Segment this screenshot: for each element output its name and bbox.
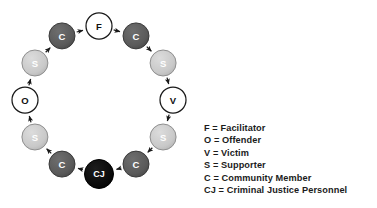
arrow-layer bbox=[29, 30, 169, 170]
flow-arrow bbox=[78, 168, 83, 169]
legend-item-community-member: C = Community Member bbox=[204, 172, 374, 184]
node-circle bbox=[150, 50, 176, 76]
node-circle bbox=[160, 87, 186, 113]
legend-item-offender: O = Offender bbox=[204, 134, 374, 146]
flow-arrow bbox=[167, 115, 169, 121]
flow-arrow bbox=[77, 30, 83, 32]
circle-node-c-7: C bbox=[49, 151, 75, 177]
circle-node-cj-6: CJ bbox=[85, 160, 114, 189]
circle-node-v-3: V bbox=[160, 87, 186, 113]
circle-node-o-9: O bbox=[12, 87, 38, 113]
circle-node-c-11: C bbox=[49, 23, 75, 49]
flow-arrow bbox=[116, 168, 121, 169]
circle-node-c-5: C bbox=[123, 151, 149, 177]
node-circle bbox=[123, 151, 149, 177]
flow-arrow bbox=[29, 116, 31, 122]
flow-arrow bbox=[46, 48, 51, 53]
legend-item-criminal-justice-personnel: CJ = Criminal Justice Personnel bbox=[204, 184, 374, 196]
node-circle bbox=[85, 160, 114, 189]
circle-node-s-2: S bbox=[150, 50, 176, 76]
flow-arrow bbox=[114, 30, 120, 32]
flow-arrow bbox=[167, 78, 169, 84]
node-circle bbox=[22, 124, 48, 150]
node-circle bbox=[49, 23, 75, 49]
circle-node-s-8: S bbox=[22, 124, 48, 150]
node-circle bbox=[150, 124, 176, 150]
node-circle bbox=[123, 23, 149, 49]
circle-node-f-0: F bbox=[86, 13, 112, 39]
flow-arrow bbox=[47, 149, 52, 154]
flow-arrow bbox=[29, 79, 31, 85]
flow-arrow bbox=[148, 148, 153, 153]
restorative-justice-circle-diagram: FCSVSCCJCSOSC F = Facilitator O = Offend… bbox=[0, 0, 377, 208]
node-circle bbox=[86, 13, 112, 39]
circle-node-c-1: C bbox=[123, 23, 149, 49]
node-circle bbox=[12, 87, 38, 113]
legend-item-facilitator: F = Facilitator bbox=[204, 122, 374, 134]
legend-item-victim: V = Victim bbox=[204, 147, 374, 159]
circle-node-s-4: S bbox=[150, 124, 176, 150]
node-layer: FCSVSCCJCSOSC bbox=[12, 13, 186, 189]
node-circle bbox=[49, 151, 75, 177]
flow-arrow bbox=[147, 47, 152, 52]
circle-node-s-10: S bbox=[22, 50, 48, 76]
legend-item-supporter: S = Supporter bbox=[204, 159, 374, 171]
node-circle bbox=[22, 50, 48, 76]
legend: F = Facilitator O = Offender V = Victim … bbox=[204, 122, 374, 196]
